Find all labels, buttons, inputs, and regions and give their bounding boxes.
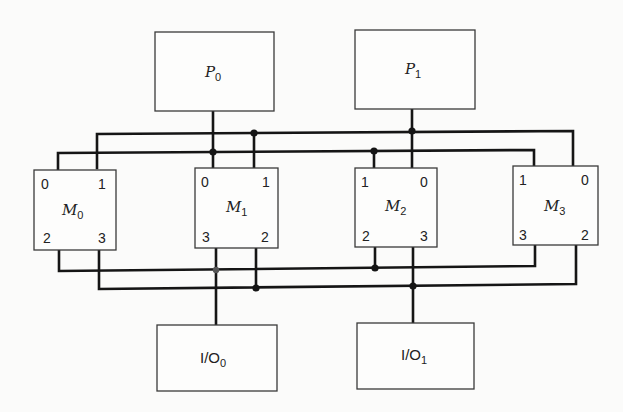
junction-dot <box>409 282 416 289</box>
upper-bus-b <box>58 150 534 170</box>
port-label: 2 <box>362 228 370 244</box>
port-label: 2 <box>581 227 589 243</box>
memory-m0: 0 1 2 3 M0 <box>34 170 116 250</box>
port-label: 0 <box>420 174 428 190</box>
port-label: 1 <box>519 172 527 188</box>
io-0: I/O0 <box>157 325 277 391</box>
junction-dot <box>213 267 219 273</box>
memory-m1: 0 1 3 2 M1 <box>195 168 278 248</box>
port-label: 3 <box>98 230 106 246</box>
processor-p0: P0 <box>155 32 274 111</box>
wires <box>58 91 576 325</box>
port-label: 2 <box>43 230 51 246</box>
port-label: 0 <box>41 176 49 192</box>
junction-dot <box>209 148 216 155</box>
junction-dot <box>250 129 257 136</box>
junction-dot <box>371 264 378 271</box>
port-label: 3 <box>202 229 210 245</box>
lower-bus-a <box>59 245 535 271</box>
junction-dot <box>370 147 377 154</box>
memory-m2: 1 0 2 3 M2 <box>355 168 437 247</box>
port-label: 3 <box>519 227 527 243</box>
io-1: I/O1 <box>357 323 474 389</box>
port-label: 1 <box>361 174 369 190</box>
port-label: 3 <box>420 228 428 244</box>
port-label: 0 <box>581 172 589 188</box>
port-label: 2 <box>261 229 269 245</box>
memory-m3: 1 0 3 2 M3 <box>513 166 598 245</box>
processor-p1: P1 <box>355 30 475 109</box>
port-label: 1 <box>262 174 270 190</box>
port-label: 0 <box>201 174 209 190</box>
multiport-memory-diagram: P0 P1 0 1 2 3 M0 0 1 3 2 M1 1 0 2 3 M2 1… <box>0 0 623 412</box>
junction-dot <box>252 284 259 291</box>
port-label: 1 <box>98 176 106 192</box>
junction-dot <box>408 127 415 134</box>
